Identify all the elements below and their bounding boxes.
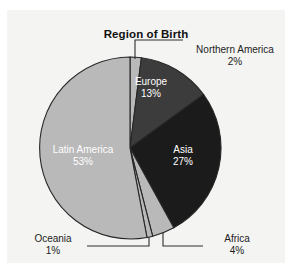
callout-label-africa-name: Africa [203,233,271,245]
slice-label-latin-america-value: 53% [37,156,129,168]
callout-label-oceania-value: 1% [19,245,87,257]
callout-label-africa: Africa 4% [203,233,271,257]
slice-label-europe-value: 13% [123,88,179,100]
leader-line-africa [163,232,203,246]
callout-label-africa-value: 4% [203,245,271,257]
chart-panel: Region of Birth Europe 13% [7,10,285,263]
slice-label-asia-name: Asia [157,144,209,156]
slice-label-europe-name: Europe [123,76,179,88]
callout-label-northern-america-value: 2% [183,56,287,68]
pie-chart-figure: Region of Birth Europe 13% [0,0,292,273]
slice-label-latin-america-name: Latin America [37,144,129,156]
leader-line-northern-america [135,40,183,59]
slice-label-europe: Europe 13% [123,76,179,99]
callout-label-northern-america: Northern America 2% [183,44,287,68]
slice-label-asia: Asia 27% [157,144,209,167]
callout-label-oceania-name: Oceania [19,233,87,245]
slice-label-asia-value: 27% [157,156,209,168]
slice-label-latin-america: Latin America 53% [37,144,129,167]
callout-label-northern-america-name: Northern America [183,44,287,56]
callout-label-oceania: Oceania 1% [19,233,87,257]
